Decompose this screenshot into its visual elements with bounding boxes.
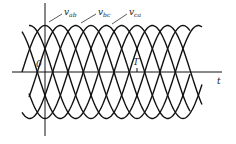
x-axis-label: t <box>217 76 221 86</box>
label-vab: vab <box>49 7 77 22</box>
svg-text:vab: vab <box>64 7 77 18</box>
label-vbc: vbc <box>81 7 111 23</box>
origin-label: 0 <box>36 59 42 69</box>
three-phase-voltage-chart: 0 T t vab vbc vca <box>0 0 236 144</box>
period-label: T <box>133 57 140 67</box>
label-vca: vca <box>112 7 141 24</box>
svg-text:vca: vca <box>129 7 141 18</box>
svg-text:vbc: vbc <box>98 7 111 18</box>
